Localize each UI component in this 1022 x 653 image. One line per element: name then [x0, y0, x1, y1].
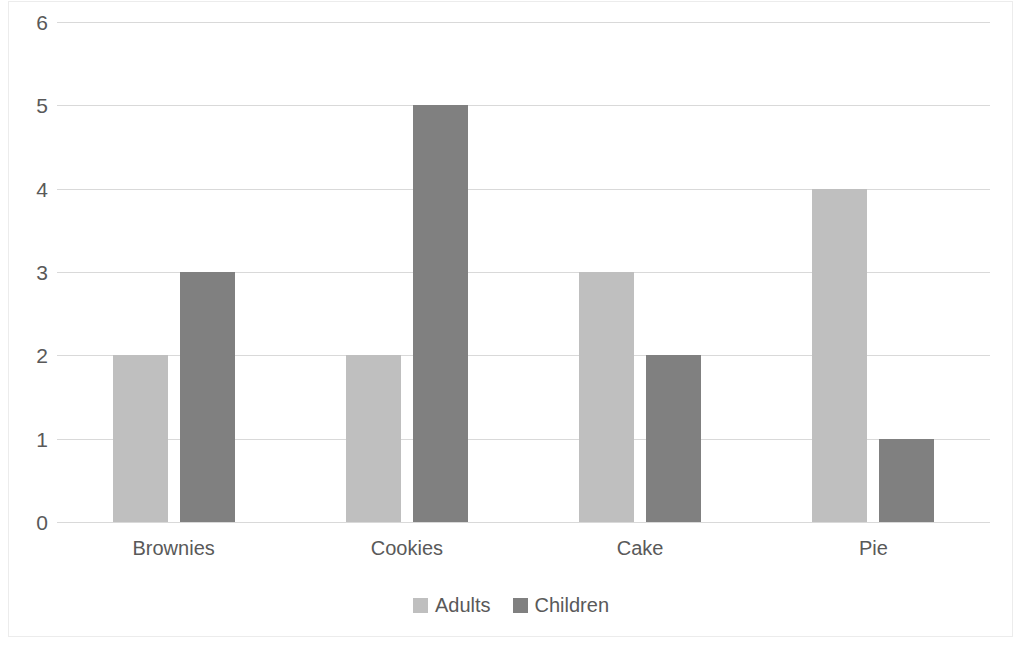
bar-chart: 0123456 BrowniesCookiesCakePie AdultsChi… [0, 0, 1022, 653]
bar-cake-adults[interactable] [579, 272, 634, 522]
y-tick-label-0: 0 [8, 512, 48, 533]
legend-swatch-children-icon [513, 598, 528, 613]
legend-item-children[interactable]: Children [513, 595, 609, 615]
legend-swatch-adults-icon [413, 598, 428, 613]
x-axis: BrowniesCookiesCakePie [57, 536, 990, 570]
y-tick-label-1: 1 [8, 428, 48, 449]
y-axis: 0123456 [0, 22, 48, 522]
y-tick-label-3: 3 [8, 262, 48, 283]
legend-label-children: Children [535, 595, 609, 615]
y-tick-label-2: 2 [8, 345, 48, 366]
bar-cake-children[interactable] [646, 355, 701, 522]
gridline-0 [57, 522, 990, 523]
legend-item-adults[interactable]: Adults [413, 595, 491, 615]
y-tick-label-5: 5 [8, 95, 48, 116]
bar-pie-children[interactable] [879, 439, 934, 522]
x-tick-label-pie: Pie [859, 536, 888, 560]
x-tick-label-cake: Cake [617, 536, 664, 560]
bar-cookies-children[interactable] [413, 105, 468, 522]
legend-label-adults: Adults [435, 595, 491, 615]
y-tick-label-6: 6 [8, 12, 48, 33]
chart-legend: AdultsChildren [0, 595, 1022, 615]
x-tick-label-brownies: Brownies [132, 536, 214, 560]
bar-brownies-children[interactable] [180, 272, 235, 522]
x-tick-label-cookies: Cookies [371, 536, 443, 560]
bars-layer [57, 22, 990, 522]
bar-brownies-adults[interactable] [113, 355, 168, 522]
bar-cookies-adults[interactable] [346, 355, 401, 522]
bar-pie-adults[interactable] [812, 189, 867, 522]
y-tick-label-4: 4 [8, 178, 48, 199]
